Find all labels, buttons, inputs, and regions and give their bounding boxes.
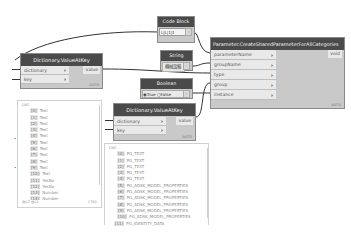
- code-cell: 1: [168, 30, 171, 35]
- code-cell: L: [161, 30, 163, 35]
- code-cell: 1: [172, 30, 175, 35]
- string-value-input[interactable]: 機械設備: [162, 62, 185, 72]
- input-port-key[interactable]: key ›: [21, 75, 69, 84]
- port-label: dictionary: [24, 68, 47, 73]
- code-block-node[interactable]: Code Block L|L|1|1 ›: [157, 16, 195, 43]
- input-port-instance[interactable]: instance ›: [211, 90, 276, 100]
- radio-true-label: True: [147, 92, 156, 97]
- preview-bubble-1[interactable]: List [0]Text [1]Text [2]Text [3]Text [4]…: [17, 100, 102, 208]
- radio-false-label: False: [161, 92, 172, 97]
- input-wire-stub: [12, 79, 20, 80]
- input-port-groupName[interactable]: groupName ›: [211, 60, 276, 70]
- boolean-title: Boolean: [141, 79, 192, 89]
- marker-dot: •: [14, 136, 16, 141]
- port-label: key: [117, 128, 125, 133]
- code-block-editor[interactable]: L|L|1|1: [159, 28, 187, 36]
- chevron-right-icon: ›: [271, 90, 273, 100]
- port-label: instance: [214, 92, 233, 97]
- string-node[interactable]: String 機械設備 ›: [160, 50, 193, 71]
- string-title: String: [161, 51, 192, 61]
- port-label: type: [214, 72, 224, 77]
- node-title: Dictionary.ValueAtKey: [21, 54, 102, 66]
- port-label: parameterName: [214, 52, 252, 57]
- lacing-indicator: AUTO: [331, 103, 341, 107]
- output-port-value[interactable]: value: [83, 66, 100, 74]
- chevron-right-icon: ›: [161, 126, 163, 135]
- chevron-right-icon: ›: [64, 66, 66, 75]
- chevron-right-icon: ›: [271, 70, 273, 80]
- input-port-dictionary[interactable]: dictionary ›: [21, 66, 69, 75]
- dictionary-value-at-key-node-1[interactable]: Dictionary.ValueAtKey dictionary › key ›…: [20, 53, 103, 89]
- list-count: {70}: [88, 199, 97, 205]
- list-item: [11]PG_IDENTITY_DATA: [105, 221, 208, 227]
- port-label: dictionary: [117, 119, 140, 124]
- port-label: group: [214, 82, 227, 87]
- output-port-value[interactable]: value: [176, 117, 193, 125]
- list-levels: @L2 @L1: [22, 200, 39, 204]
- string-output-port[interactable]: ›: [183, 62, 190, 70]
- marker-dot: •: [14, 165, 16, 170]
- preview-scrollbar[interactable]: [207, 148, 209, 218]
- preview-list: [0]PG_TEXT [1]PG_TEXT [2]PG_TEXT [3]PG_T…: [105, 151, 208, 227]
- output-port-void[interactable]: void: [328, 50, 342, 58]
- input-port-group[interactable]: group ›: [211, 80, 276, 90]
- dictionary-value-at-key-node-2[interactable]: Dictionary.ValueAtKey dictionary › key ›…: [113, 103, 196, 141]
- lacing-indicator: AUTO: [89, 83, 99, 87]
- preview-list: [0]Text [1]Text [2]Text [3]Text [4]Text …: [18, 108, 101, 200]
- input-wire-stub: [105, 129, 113, 130]
- node-title: Dictionary.ValueAtKey: [114, 104, 195, 116]
- chevron-right-icon: ›: [161, 117, 163, 126]
- preview-list-title: List: [18, 101, 101, 108]
- boolean-node[interactable]: Boolean ◉True ○False ›: [140, 78, 193, 99]
- input-port-key[interactable]: key ›: [114, 126, 166, 135]
- code-cell: L: [165, 30, 167, 35]
- boolean-output-port[interactable]: ›: [183, 90, 190, 98]
- input-port-type[interactable]: type ›: [211, 70, 276, 80]
- chevron-right-icon: ›: [64, 75, 66, 84]
- code-block-output-port[interactable]: ›: [185, 28, 192, 36]
- lacing-indicator: AUTO: [182, 135, 192, 139]
- port-label: key: [24, 77, 32, 82]
- port-label: groupName: [214, 62, 241, 67]
- preview-footer: @L2 @L1 {70}: [22, 199, 97, 205]
- input-wire-stub: [12, 69, 20, 70]
- chevron-right-icon: ›: [271, 50, 273, 60]
- input-port-parameterName[interactable]: parameterName ›: [211, 50, 276, 60]
- input-port-dictionary[interactable]: dictionary ›: [114, 117, 166, 126]
- input-wire-stub: [105, 120, 113, 121]
- chevron-right-icon: ›: [271, 80, 273, 90]
- code-block-title: Code Block: [158, 17, 194, 27]
- create-shared-parameter-node[interactable]: Parameter.CreateSharedParameterForAllCat…: [210, 37, 345, 109]
- boolean-toggle[interactable]: ◉True ○False: [142, 90, 184, 98]
- preview-bubble-2[interactable]: List [0]PG_TEXT [1]PG_TEXT [2]PG_TEXT [3…: [104, 143, 209, 225]
- preview-scrollbar[interactable]: [99, 105, 101, 185]
- chevron-right-icon: ›: [271, 60, 273, 70]
- node-title: Parameter.CreateSharedParameterForAllCat…: [211, 38, 344, 50]
- preview-list-title: List: [105, 144, 208, 151]
